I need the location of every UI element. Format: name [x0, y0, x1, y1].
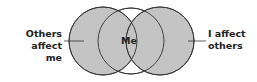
me-label: Me: [116, 35, 142, 47]
right-label-line2: others: [208, 40, 256, 52]
left-label-line2: affect me: [14, 40, 62, 64]
right-label-line1: I affect: [208, 28, 256, 40]
left-label-line1: Others: [14, 28, 62, 40]
i-affect-others-label: I affect others: [208, 28, 256, 52]
others-affect-me-label: Others affect me: [14, 28, 62, 64]
